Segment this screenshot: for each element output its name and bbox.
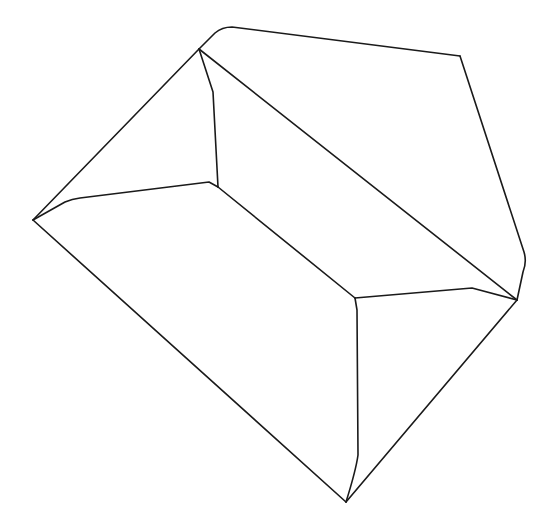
inner-right-ridge xyxy=(355,288,517,300)
inner-bottom-vertical-edge xyxy=(346,298,358,502)
polyhedron-edges xyxy=(33,27,525,502)
inner-center-diagonal xyxy=(218,187,355,298)
polyhedron-drawing xyxy=(0,0,551,529)
outer-bottom-left-edge xyxy=(33,220,346,502)
outer-bottom-right-edge xyxy=(346,300,517,502)
top-rounded-edge xyxy=(199,27,460,56)
inner-left-ridge xyxy=(33,182,218,220)
outer-left-top-edge xyxy=(33,49,199,220)
inner-top-vertical-edge xyxy=(199,49,218,187)
